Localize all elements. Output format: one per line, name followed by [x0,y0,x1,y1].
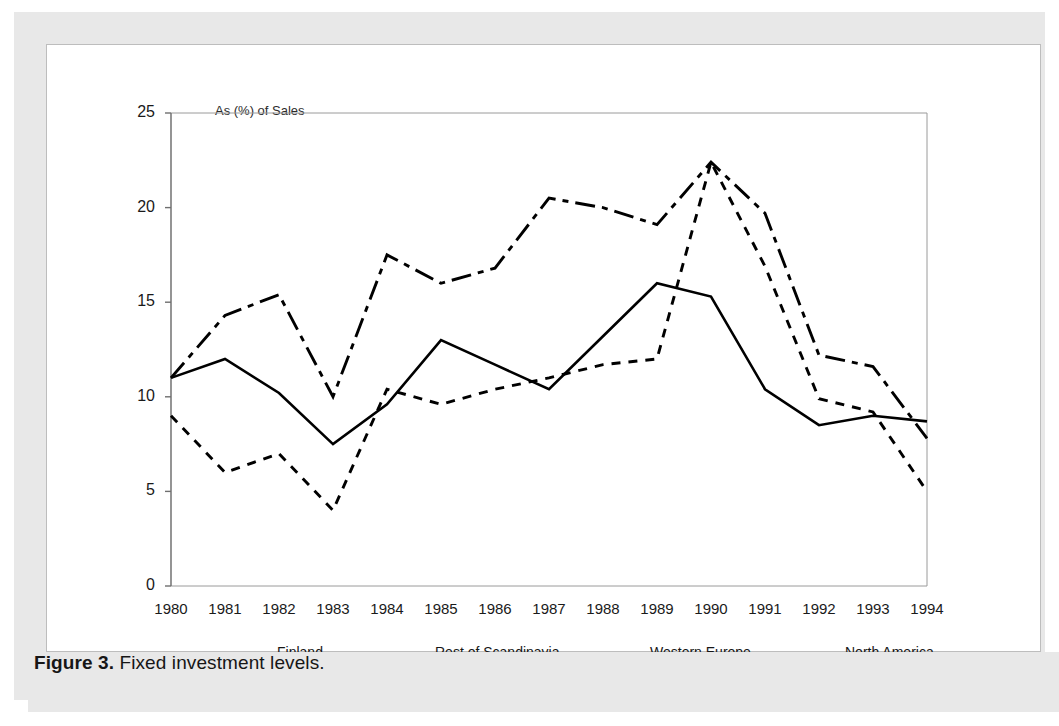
x-tick-label: 1993 [843,600,903,617]
y-tick-label: 10 [111,387,155,405]
x-tick-label: 1991 [735,600,795,617]
y-tick-label: 20 [111,198,155,216]
x-tick-label: 1988 [573,600,633,617]
y-tick-label: 15 [111,292,155,310]
x-tick-label: 1992 [789,600,849,617]
x-tick-label: 1989 [627,600,687,617]
figure-caption-text: Fixed investment levels. [119,652,324,673]
line-chart: As (%) of Sales 0510152025 1980198119821… [47,45,1042,653]
x-tick-label: 1981 [195,600,255,617]
x-tick-label: 1987 [519,600,579,617]
figure-caption: Figure 3. Fixed investment levels. [34,652,325,674]
x-tick-label: 1984 [357,600,417,617]
y-tick-label: 25 [111,103,155,121]
x-tick-label: 1990 [681,600,741,617]
x-tick-label: 1980 [141,600,201,617]
figure-page: As (%) of Sales 0510152025 1980198119821… [0,0,1059,726]
figure-card: As (%) of Sales 0510152025 1980198119821… [46,44,1041,652]
chart-plot-area [47,45,1042,653]
x-tick-label: 1985 [411,600,471,617]
scan-frame: As (%) of Sales 0510152025 1980198119821… [14,12,1045,700]
series-line-north-america [171,283,927,444]
x-tick-label: 1986 [465,600,525,617]
y-tick-label: 5 [111,481,155,499]
x-tick-label: 1982 [249,600,309,617]
x-tick-label: 1983 [303,600,363,617]
x-tick-label: 1994 [897,600,957,617]
y-tick-label: 0 [111,576,155,594]
figure-caption-label: Figure 3. [34,652,114,673]
series-line-western-europe [171,162,927,510]
